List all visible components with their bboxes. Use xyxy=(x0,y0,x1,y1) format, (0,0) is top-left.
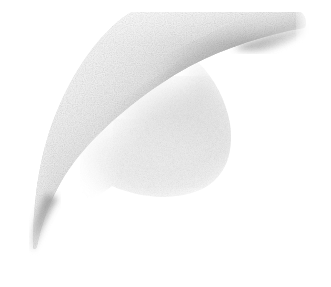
artboard: Curled paper corner shading study a peel… xyxy=(0,0,331,287)
page-curl-drawing xyxy=(0,0,331,287)
